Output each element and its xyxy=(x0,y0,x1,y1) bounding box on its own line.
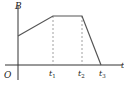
b-curve xyxy=(18,16,101,65)
t2-label: t2 xyxy=(78,69,85,79)
t1-label: t1 xyxy=(49,69,56,79)
x-axis-label: t xyxy=(121,61,124,70)
b-t-graph: B O t1 t2 t3 t xyxy=(0,0,124,88)
origin-label: O xyxy=(4,70,12,80)
y-axis-label: B xyxy=(14,1,22,11)
t3-label: t3 xyxy=(99,69,106,79)
